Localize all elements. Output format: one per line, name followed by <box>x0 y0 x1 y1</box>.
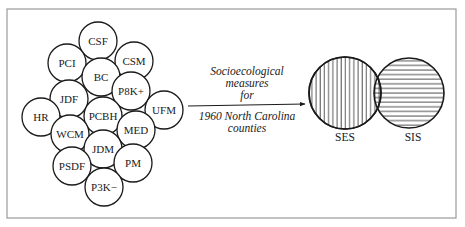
variable-node-label: PCI <box>58 57 75 69</box>
variable-node-label: UFM <box>152 104 176 116</box>
variable-node-label: PM <box>125 157 141 169</box>
arrow-connector <box>188 104 305 106</box>
variable-node-label: MED <box>124 124 149 136</box>
sis-circle <box>374 58 444 128</box>
variable-node-label: JDF <box>60 93 78 105</box>
variable-node: PCI <box>48 44 86 82</box>
variable-node: PCBH <box>84 97 122 135</box>
caption-line-5: counties <box>228 122 267 134</box>
variable-node-label: WCM <box>56 128 84 140</box>
caption-line-4: 1960 North Carolina <box>199 110 296 122</box>
variable-node: PSDF <box>53 147 91 185</box>
variable-node-label: P3K− <box>91 181 117 193</box>
variable-node-label: JDM <box>92 143 114 155</box>
variable-node-label: P8K+ <box>118 85 144 97</box>
variable-node-label: CSM <box>122 55 145 67</box>
variable-cluster: CSFPCICSMBCP8K+JDFHRUFMPCBHWCMMEDJDMPSDF… <box>22 22 183 206</box>
sis-label: SIS <box>405 131 422 143</box>
variable-node: P3K− <box>85 168 123 206</box>
variable-node-label: PSDF <box>59 160 85 172</box>
caption-text: Socioecological measures for 1960 North … <box>199 65 296 134</box>
variable-node: MED <box>117 111 155 149</box>
variable-node-label: BC <box>94 71 109 83</box>
variable-node-label: CSF <box>88 35 108 47</box>
variable-node: CSF <box>79 22 117 60</box>
variable-node-label: HR <box>33 111 49 123</box>
diagram-canvas: CSFPCICSMBCP8K+JDFHRUFMPCBHWCMMEDJDMPSDF… <box>0 0 465 227</box>
caption-line-2: measures <box>225 77 269 89</box>
caption-line-3: for <box>240 89 254 102</box>
variable-node-label: PCBH <box>89 110 118 122</box>
venn-diagram: SES SIS <box>309 57 444 143</box>
ses-label: SES <box>335 131 355 143</box>
